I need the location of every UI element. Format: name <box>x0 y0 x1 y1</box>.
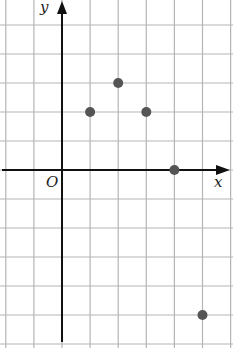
x-axis-label: x <box>214 175 222 190</box>
origin-label: O <box>46 175 58 190</box>
data-point <box>198 310 208 320</box>
plot-area <box>0 0 233 348</box>
data-point <box>85 107 95 117</box>
y-axis-label: y <box>40 0 48 15</box>
scatter-plot: y x O <box>0 0 233 348</box>
data-point <box>141 107 151 117</box>
y-axis-arrow-icon <box>57 1 67 14</box>
data-point <box>113 78 123 88</box>
data-point <box>169 165 179 175</box>
